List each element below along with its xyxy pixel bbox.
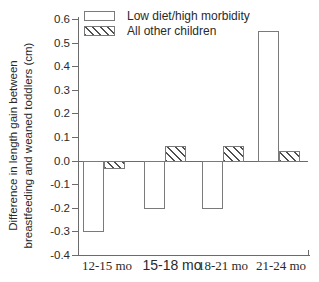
x-category-label: 21-24 mo (241, 258, 319, 273)
bar-all-other-children (223, 146, 244, 162)
y-tick-label: 0.1 (38, 130, 70, 144)
x-axis-end-tick (308, 250, 309, 255)
legend-label-all-other: All other children (127, 24, 216, 38)
y-tick (72, 231, 78, 232)
y-axis-line (78, 17, 79, 256)
legend-item-low-diet: Low diet/high morbidity (84, 8, 250, 23)
bar-low-diet-high-morbidity (83, 161, 104, 232)
y-tick-label: -0.2 (38, 201, 70, 215)
legend-item-all-other: All other children (84, 23, 250, 38)
y-tick-label: 0.3 (38, 83, 70, 97)
y-tick-label: 0.5 (38, 36, 70, 50)
plot-area: 0.60.50.40.30.20.10.0-0.1-0.2-0.3-0.412-… (0, 0, 319, 282)
bar-all-other-children (104, 161, 125, 169)
y-tick-label: -0.3 (38, 224, 70, 238)
y-tick-label: -0.1 (38, 177, 70, 191)
y-tick (72, 19, 78, 20)
y-tick (72, 90, 78, 91)
length-gain-difference-chart: Difference in length gain between breast… (0, 0, 319, 282)
y-tick-label: 0.6 (38, 12, 70, 26)
y-tick (72, 255, 78, 256)
legend: Low diet/high morbidity All other childr… (84, 8, 250, 38)
y-tick-label: 0.2 (38, 106, 70, 120)
y-tick (72, 184, 78, 185)
bar-low-diet-high-morbidity (202, 161, 223, 209)
y-tick (72, 208, 78, 209)
y-tick (72, 137, 78, 138)
open-bar-swatch-icon (84, 11, 115, 21)
y-tick-label: 0.0 (38, 154, 70, 168)
x-axis-line (78, 255, 310, 256)
y-tick (72, 66, 78, 67)
bar-low-diet-high-morbidity (144, 161, 165, 209)
hatched-bar-swatch-icon (84, 26, 115, 36)
y-tick-label: 0.4 (38, 59, 70, 73)
bar-all-other-children (279, 151, 300, 162)
y-tick (72, 43, 78, 44)
bar-low-diet-high-morbidity (258, 31, 279, 162)
legend-label-low-diet: Low diet/high morbidity (127, 9, 250, 23)
y-tick (72, 113, 78, 114)
bar-all-other-children (165, 146, 186, 162)
y-tick-label: -0.4 (38, 248, 70, 262)
